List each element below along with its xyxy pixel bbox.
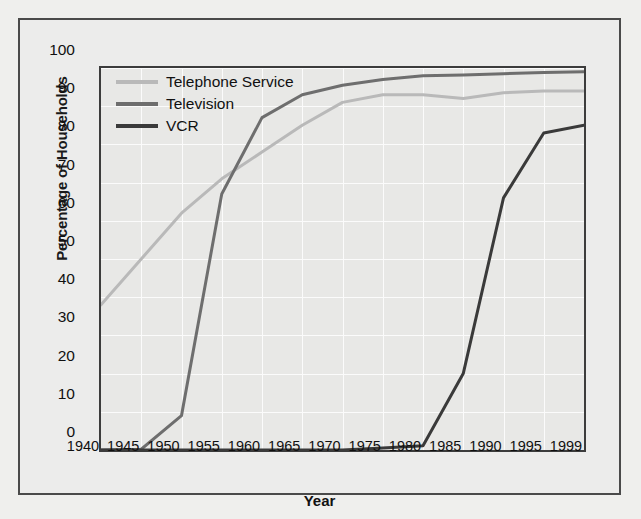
legend-label-telephone-service: Telephone Service bbox=[166, 74, 294, 90]
legend: Telephone Service Television VCR bbox=[116, 72, 326, 138]
x-tick-label: 1999 bbox=[543, 438, 589, 454]
legend-swatch-television bbox=[116, 102, 158, 106]
y-tick-label: 20 bbox=[31, 347, 75, 365]
x-tick-label: 1990 bbox=[463, 438, 509, 454]
legend-item-vcr[interactable]: VCR bbox=[116, 116, 326, 136]
legend-label-television: Television bbox=[166, 96, 234, 112]
chart-figure: Percentage of Households Telephone Servi… bbox=[0, 0, 641, 519]
x-tick-label: 1975 bbox=[342, 438, 388, 454]
x-tick-label: 1970 bbox=[302, 438, 348, 454]
figure-frame: Percentage of Households Telephone Servi… bbox=[18, 18, 621, 495]
x-tick-label: 1985 bbox=[422, 438, 468, 454]
x-tick-label: 1995 bbox=[503, 438, 549, 454]
y-tick-label: 30 bbox=[31, 308, 75, 326]
series-line-vcr bbox=[101, 125, 584, 450]
x-tick-label: 1980 bbox=[382, 438, 428, 454]
x-tick-label: 1955 bbox=[181, 438, 227, 454]
legend-swatch-telephone-service bbox=[116, 80, 158, 84]
x-tick-label: 1945 bbox=[100, 438, 146, 454]
y-axis-title: Percentage of Households bbox=[53, 44, 70, 294]
x-tick-label: 1960 bbox=[221, 438, 267, 454]
x-axis-title: Year bbox=[20, 492, 619, 509]
legend-item-telephone-service[interactable]: Telephone Service bbox=[116, 72, 326, 92]
legend-swatch-vcr bbox=[116, 124, 158, 128]
y-tick-label: 10 bbox=[31, 385, 75, 403]
legend-item-television[interactable]: Television bbox=[116, 94, 326, 114]
legend-label-vcr: VCR bbox=[166, 118, 199, 134]
x-tick-label: 1950 bbox=[141, 438, 187, 454]
x-tick-label: 1965 bbox=[261, 438, 307, 454]
x-tick-label: 1940 bbox=[60, 438, 106, 454]
